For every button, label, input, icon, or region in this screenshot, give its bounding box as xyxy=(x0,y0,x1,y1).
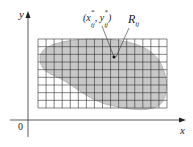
point-label: (x*ij, y*ij) xyxy=(83,13,111,26)
origin-label: 0 xyxy=(18,122,23,132)
region-d xyxy=(40,39,167,110)
x-axis-label: x xyxy=(180,125,185,136)
y-axis-arrow-icon xyxy=(26,11,31,18)
x-axis-arrow-icon xyxy=(179,118,186,123)
region-label: Rij xyxy=(128,13,139,28)
sample-point xyxy=(113,56,116,59)
y-axis-label: y xyxy=(19,9,24,20)
